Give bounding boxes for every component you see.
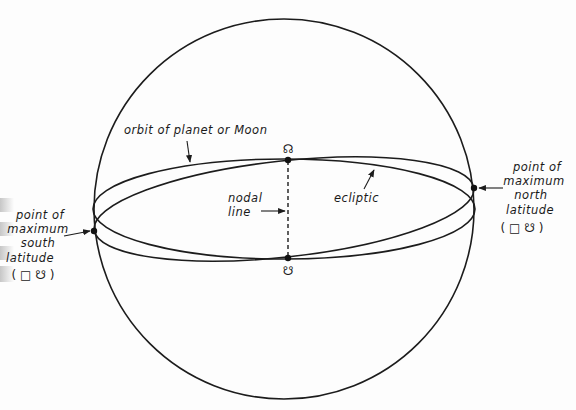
svg-text:point of: point of [512,160,563,174]
nodal-line-label-1: nodal [228,191,263,205]
orbit-ellipse [89,140,479,277]
svg-text:south: south [21,236,56,250]
svg-text:( □ ☋ ): ( □ ☋ ) [12,268,55,282]
svg-text:north: north [514,188,547,202]
svg-text:point of: point of [15,208,66,222]
nodal-line-label-2: line [228,205,251,219]
svg-text:maximum: maximum [7,222,68,236]
orbit-arrow [187,141,190,162]
north-point-label: point of maximum north latitude ( □ ☋ ) [501,160,565,235]
svg-text:maximum: maximum [503,174,564,188]
descending-node-icon: ☋ [283,264,294,278]
svg-text:latitude: latitude [506,203,554,217]
ascending-node-dot [285,157,291,163]
ascending-node-icon: ☊ [283,142,294,156]
svg-text:latitude: latitude [6,251,54,265]
orbit-label: orbit of planet or Moon [124,123,267,137]
svg-text:( □ ☋ ): ( □ ☋ ) [501,221,544,235]
descending-node-dot [285,255,291,261]
celestial-sphere [94,19,474,399]
ecliptic-ellipse [93,159,475,259]
ecliptic-arrow [364,170,374,189]
south-point-label: point of maximum south latitude ( □ ☋ ) [6,208,69,282]
max-north-dot [471,185,477,191]
celestial-sphere-diagram: ☊ ☋ orbit of planet or Moon ecliptic nod… [0,0,576,410]
max-south-dot [91,228,97,234]
ecliptic-label: ecliptic [334,191,379,205]
